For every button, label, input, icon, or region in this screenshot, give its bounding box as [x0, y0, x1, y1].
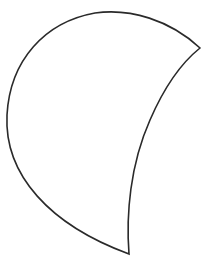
crescent-shape — [7, 12, 200, 254]
shape-svg — [0, 0, 216, 260]
figure-canvas — [0, 0, 216, 260]
